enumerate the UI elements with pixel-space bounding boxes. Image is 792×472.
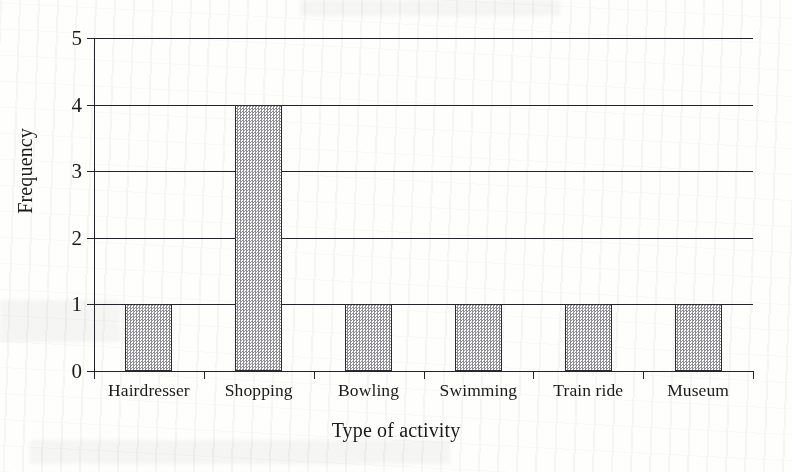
y-tick-label-4: 4 xyxy=(72,94,83,115)
x-tick xyxy=(533,371,534,379)
y-tick-0 xyxy=(87,371,94,372)
bar xyxy=(675,304,722,371)
gridline-5 xyxy=(94,38,753,39)
x-tick xyxy=(94,371,95,379)
y-axis-title: Frequency xyxy=(14,128,38,214)
y-tick-label-5: 5 xyxy=(72,28,83,49)
x-axis-label: Museum xyxy=(643,380,753,401)
gridline-1 xyxy=(94,304,753,305)
y-tick-5 xyxy=(87,38,94,39)
y-tick-label-2: 2 xyxy=(72,227,83,248)
x-axis-label: Hairdresser xyxy=(94,380,204,401)
gridline-4 xyxy=(94,105,753,106)
y-tick-label-3: 3 xyxy=(72,161,83,182)
x-tick xyxy=(753,371,754,379)
y-tick-label-1: 1 xyxy=(72,294,83,315)
y-tick-3 xyxy=(87,171,94,172)
x-axis-label: Shopping xyxy=(204,380,314,401)
y-tick-1 xyxy=(87,304,94,305)
y-tick-label-0: 0 xyxy=(72,361,83,382)
bar xyxy=(125,304,172,371)
plot-area xyxy=(94,38,753,371)
gridline-2 xyxy=(94,238,753,239)
bar xyxy=(565,304,612,371)
bar xyxy=(455,304,502,371)
bar xyxy=(235,105,282,371)
x-tick xyxy=(424,371,425,379)
x-tick xyxy=(643,371,644,379)
x-axis-title: Type of activity xyxy=(0,419,792,442)
bar xyxy=(345,304,392,371)
x-axis-label: Swimming xyxy=(424,380,534,401)
x-tick xyxy=(204,371,205,379)
x-axis-label: Bowling xyxy=(314,380,424,401)
gridline-3 xyxy=(94,171,753,172)
x-tick xyxy=(314,371,315,379)
bar-chart-figure: Frequency 012345 HairdresserShoppingBowl… xyxy=(0,0,792,472)
y-tick-4 xyxy=(87,105,94,106)
y-tick-2 xyxy=(87,238,94,239)
x-axis-label: Train ride xyxy=(533,380,643,401)
